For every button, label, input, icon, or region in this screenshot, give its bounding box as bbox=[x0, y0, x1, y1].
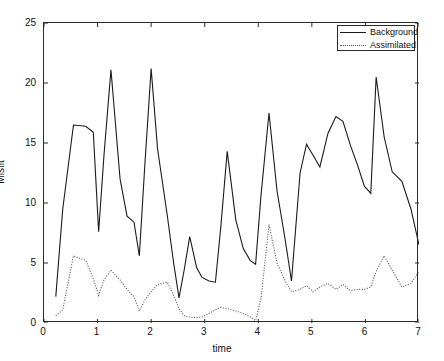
legend-label-assimilated: Assimilated bbox=[370, 41, 416, 50]
x-tick-label-1: 1 bbox=[94, 326, 100, 337]
x-tick-label-0: 0 bbox=[40, 326, 46, 337]
x-tick-label-7: 7 bbox=[415, 326, 421, 337]
x-tick-label-3: 3 bbox=[201, 326, 207, 337]
x-axis-tick-labels: 01234567 bbox=[0, 0, 444, 361]
x-tick-label-6: 6 bbox=[362, 326, 368, 337]
x-axis-title: time bbox=[0, 343, 444, 354]
x-tick-label-2: 2 bbox=[147, 326, 153, 337]
legend-line-sample-solid bbox=[340, 32, 366, 33]
chart-figure: 0510152025 Misfit 01234567 time Backgrou… bbox=[0, 0, 444, 361]
x-tick-label-5: 5 bbox=[308, 326, 314, 337]
legend-line-sample-dotted bbox=[340, 45, 366, 46]
x-tick-label-4: 4 bbox=[255, 326, 261, 337]
legend-item-assimilated: Assimilated bbox=[338, 39, 414, 52]
legend-item-background: Background bbox=[338, 26, 414, 39]
legend-label-background: Background bbox=[370, 28, 418, 37]
chart-legend: Background Assimilated bbox=[337, 25, 415, 51]
